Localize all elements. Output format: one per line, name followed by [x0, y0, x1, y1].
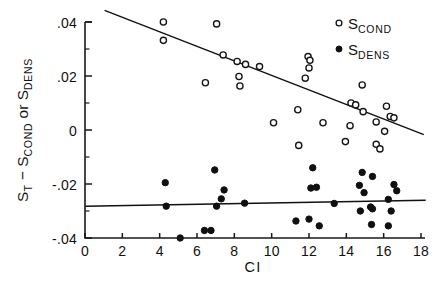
point-s-dens-23 — [391, 181, 397, 187]
point-s-cond-30 — [342, 139, 348, 145]
point-s-dens-18 — [356, 182, 362, 188]
y-tick-labels: -.04-.020.02.04 — [52, 15, 77, 247]
point-s-cond-22 — [383, 103, 389, 109]
x-axis-title-text: CI — [245, 259, 262, 275]
S_DENS-fit — [85, 200, 426, 206]
legend-item-s-dens: SDENS — [348, 41, 390, 61]
point-s-cond-17 — [296, 142, 302, 148]
point-s-cond-16 — [320, 120, 326, 126]
point-s-dens-4 — [208, 227, 214, 233]
point-s-cond-7 — [202, 80, 208, 86]
y-tick-label-1: -.02 — [52, 177, 77, 193]
point-s-dens-20 — [369, 173, 375, 179]
point-s-dens-8 — [213, 203, 219, 209]
point-s-dens-6 — [221, 187, 227, 193]
legend-open-circle-icon — [336, 20, 342, 26]
point-s-cond-26 — [391, 115, 397, 121]
point-s-cond-13 — [302, 75, 308, 81]
point-s-cond-0 — [160, 19, 166, 25]
point-s-dens-15 — [306, 216, 312, 222]
point-s-dens-12 — [313, 184, 319, 190]
point-s-dens-14 — [293, 218, 299, 224]
series-s-cond-points — [160, 19, 397, 152]
point-s-cond-8 — [236, 73, 242, 79]
ylab-part-1-main: − S — [14, 156, 31, 184]
legend-1-main: S — [348, 41, 358, 58]
ylab-part-2-sub: DENS — [22, 58, 34, 90]
point-s-dens-5 — [212, 167, 218, 173]
point-s-dens-28 — [369, 206, 375, 212]
x-tick-label-2: 4 — [156, 243, 164, 259]
x-tick-labels: 024681012141618 — [81, 243, 429, 259]
point-s-cond-27 — [382, 128, 388, 134]
legend-0-sub: COND — [358, 23, 392, 35]
x-tick-label-4: 8 — [230, 243, 238, 259]
ylab-part-0-main: S — [14, 192, 31, 202]
point-s-cond-18 — [359, 82, 365, 88]
point-s-cond-5 — [242, 61, 248, 67]
point-s-cond-21 — [360, 109, 366, 115]
point-s-cond-24 — [373, 119, 379, 125]
y-axis-title-text: ST − SCOND or SDENS — [14, 58, 34, 202]
point-s-dens-1 — [163, 203, 169, 209]
x-tick-label-0: 0 — [81, 243, 89, 259]
point-s-dens-13 — [331, 200, 337, 206]
legend-item-s-cond: SCOND — [348, 15, 392, 35]
point-s-cond-11 — [307, 57, 313, 63]
point-s-cond-4 — [234, 58, 240, 64]
y-axis-title: ST − SCOND or SDENS — [14, 58, 34, 202]
point-s-cond-6 — [256, 63, 262, 69]
point-s-dens-25 — [388, 208, 394, 214]
y-tick-label-2: 0 — [69, 123, 77, 139]
point-s-dens-0 — [162, 179, 168, 185]
point-s-dens-19 — [361, 189, 367, 195]
point-s-cond-1 — [160, 37, 166, 43]
legend-0-main: S — [348, 15, 358, 32]
point-s-dens-16 — [316, 223, 322, 229]
legend-1-sub: DENS — [358, 49, 390, 61]
x-axis-title: CI — [245, 259, 262, 275]
ylab-part-1-sub: COND — [22, 123, 34, 157]
ylab-part-2-main: or S — [14, 90, 31, 123]
point-s-dens-10 — [310, 165, 316, 171]
point-s-cond-29 — [377, 146, 383, 152]
point-s-cond-14 — [295, 107, 301, 113]
legend: SCOND SDENS — [336, 15, 392, 61]
y-tick-label-3: .02 — [57, 69, 77, 85]
x-tick-label-5: 10 — [264, 243, 280, 259]
x-tick-label-6: 12 — [301, 243, 317, 259]
point-s-cond-3 — [220, 52, 226, 58]
point-s-dens-9 — [241, 200, 247, 206]
x-tick-label-1: 2 — [118, 243, 126, 259]
y-tick-label-0: -.04 — [52, 231, 77, 247]
point-s-cond-23 — [347, 123, 353, 129]
point-s-dens-3 — [201, 227, 207, 233]
point-s-cond-12 — [306, 65, 312, 71]
point-s-dens-24 — [385, 196, 391, 202]
x-tick-label-3: 6 — [193, 243, 201, 259]
point-s-cond-9 — [237, 83, 243, 89]
point-s-dens-22 — [357, 208, 363, 214]
x-tick-label-9: 18 — [413, 243, 429, 259]
plot-canvas: 024681012141618 -.04-.020.02.04 CI ST − … — [0, 0, 448, 283]
x-tick-label-8: 16 — [376, 243, 392, 259]
scatter-plot-figure: 024681012141618 -.04-.020.02.04 CI ST − … — [0, 0, 448, 283]
point-s-cond-15 — [270, 120, 276, 126]
point-s-dens-26 — [368, 221, 374, 227]
y-tick-label-4: .04 — [57, 15, 77, 31]
point-s-dens-27 — [385, 223, 391, 229]
point-s-dens-17 — [359, 169, 365, 175]
point-s-dens-29 — [394, 188, 400, 194]
x-tick-label-7: 14 — [338, 243, 354, 259]
point-s-cond-2 — [214, 21, 220, 27]
point-s-dens-7 — [218, 196, 224, 202]
point-s-cond-20 — [353, 102, 359, 108]
legend-filled-circle-icon — [336, 46, 342, 52]
ylab-part-0-sub: T — [22, 184, 34, 191]
